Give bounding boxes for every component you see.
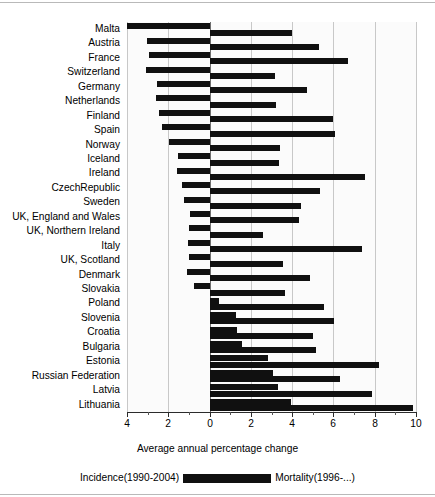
bar-incidence — [156, 95, 210, 101]
category-label: Slovakia — [0, 283, 120, 294]
bar-mortality — [210, 391, 372, 397]
bar-mortality — [210, 290, 285, 296]
bar-mortality — [210, 44, 319, 50]
x-tick-label: 10 — [404, 418, 428, 430]
bar-mortality — [210, 275, 310, 281]
bar-incidence — [210, 399, 292, 405]
x-tick-minor — [230, 412, 231, 415]
category-label: Denmark — [0, 269, 120, 280]
bar-mortality — [210, 261, 283, 267]
bar-mortality — [210, 116, 334, 122]
bar-mortality — [210, 102, 276, 108]
category-label: Norway — [0, 139, 120, 150]
gridline-6 — [333, 22, 334, 412]
bar-mortality — [210, 160, 279, 166]
bar-mortality — [210, 318, 335, 324]
category-label: UK, England and Wales — [0, 211, 120, 222]
bar-incidence — [157, 81, 210, 87]
chart-legend: Incidence(1990-2004) Mortality(1996-...) — [0, 470, 435, 486]
category-label: Austria — [0, 37, 120, 48]
bar-mortality — [210, 333, 313, 339]
category-label: Lithuania — [0, 399, 120, 410]
bar-mortality — [210, 203, 302, 209]
category-label: Switzerland — [0, 66, 120, 77]
category-label-column: MaltaAustriaFranceSwitzerlandGermanyNeth… — [0, 22, 124, 412]
bar-incidence — [210, 298, 219, 304]
bar-mortality — [210, 30, 293, 36]
category-label: Iceland — [0, 153, 120, 164]
bar-incidence — [194, 283, 209, 289]
category-label: Ireland — [0, 167, 120, 178]
category-label: Bulgaria — [0, 341, 120, 352]
category-label: Russian Federation — [0, 370, 120, 381]
bar-incidence — [182, 182, 210, 188]
x-tick-label: 2 — [156, 418, 180, 430]
category-label: Netherlands — [0, 95, 120, 106]
bar-incidence — [210, 341, 242, 347]
chart-figure: MaltaAustriaFranceSwitzerlandGermanyNeth… — [0, 0, 435, 497]
bar-mortality — [210, 347, 316, 353]
x-tick-minor — [272, 412, 273, 415]
bar-incidence — [159, 110, 210, 116]
gridline-8 — [375, 22, 376, 412]
bar-mortality — [210, 232, 264, 238]
category-label: France — [0, 52, 120, 63]
x-tick — [251, 412, 252, 417]
x-tick — [168, 412, 169, 417]
x-tick-label: 4 — [280, 418, 304, 430]
bar-mortality — [210, 174, 366, 180]
page-rule-bottom — [0, 494, 435, 495]
bar-incidence — [210, 327, 238, 333]
bar-incidence — [210, 312, 237, 318]
x-axis: 420246810 — [127, 412, 416, 442]
x-tick-minor — [189, 412, 190, 415]
x-tick-label: 2 — [239, 418, 263, 430]
bar-mortality — [210, 304, 325, 310]
x-axis-title: Average annual percentage change — [0, 443, 435, 454]
bar-incidence — [188, 240, 210, 246]
bar-incidence — [190, 211, 210, 217]
category-label: Italy — [0, 240, 120, 251]
bar-incidence — [189, 254, 210, 260]
x-tick-label: 8 — [363, 418, 387, 430]
x-tick-label: 6 — [321, 418, 345, 430]
page-rule-top — [0, 2, 435, 3]
category-label: Malta — [0, 23, 120, 34]
bar-incidence — [178, 153, 210, 159]
bar-mortality — [210, 58, 348, 64]
bar-incidence — [187, 269, 210, 275]
bar-incidence — [127, 23, 210, 29]
x-tick-minor — [395, 412, 396, 415]
legend-label-mortality: Mortality(1996-...) — [275, 472, 355, 484]
category-label: Germany — [0, 81, 120, 92]
bar-incidence — [146, 67, 210, 73]
x-tick-minor — [354, 412, 355, 415]
bar-mortality — [210, 362, 379, 368]
bar-mortality — [210, 131, 336, 137]
bar-incidence — [210, 384, 278, 390]
x-tick-label: 0 — [198, 418, 222, 430]
x-tick — [333, 412, 334, 417]
category-label: Sweden — [0, 196, 120, 207]
bar-mortality — [210, 246, 363, 252]
category-label: UK, Northern Ireland — [0, 225, 120, 236]
bar-incidence — [149, 52, 210, 58]
legend-swatch-icon — [183, 474, 271, 483]
x-tick — [416, 412, 417, 417]
bar-mortality — [210, 188, 320, 194]
category-label: Poland — [0, 297, 120, 308]
bar-incidence — [189, 225, 210, 231]
category-label: UK, Scotland — [0, 254, 120, 265]
bar-mortality — [210, 145, 280, 151]
bar-mortality — [210, 87, 307, 93]
bar-mortality — [210, 217, 300, 223]
bar-mortality — [210, 405, 413, 411]
x-tick — [375, 412, 376, 417]
bar-mortality — [210, 73, 275, 79]
category-label: CzechRepublic — [0, 182, 120, 193]
bar-incidence — [177, 168, 210, 174]
bar-incidence — [210, 355, 269, 361]
x-tick — [127, 412, 128, 417]
category-label: Finland — [0, 110, 120, 121]
bar-incidence — [184, 197, 210, 203]
